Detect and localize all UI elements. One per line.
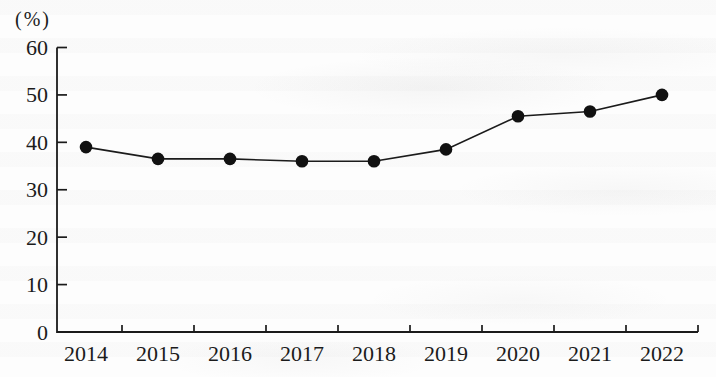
y-axis-tick-label: 30 [26, 177, 48, 202]
line-chart: 0102030405060201420152016201720182019202… [0, 0, 716, 377]
x-axis-tick-label: 2021 [568, 341, 612, 366]
data-point-marker [368, 155, 381, 168]
x-axis-tick-label: 2020 [496, 341, 540, 366]
x-axis-tick-label: 2019 [424, 341, 468, 366]
y-axis-tick-label: 40 [26, 130, 48, 155]
data-series-line [86, 95, 662, 161]
data-point-marker [512, 110, 525, 123]
y-axis-tick-label: 0 [37, 320, 48, 345]
y-axis-unit-label: (%) [15, 8, 51, 31]
x-axis-tick-label: 2014 [64, 341, 108, 366]
data-point-marker [584, 105, 597, 118]
x-axis-tick-label: 2016 [208, 341, 252, 366]
data-point-marker [440, 143, 453, 156]
y-axis-tick-label: 60 [26, 35, 48, 60]
x-axis-tick-label: 2018 [352, 341, 396, 366]
data-point-marker [80, 141, 93, 154]
x-axis-tick-label: 2022 [640, 341, 684, 366]
x-axis-tick-label: 2015 [136, 341, 180, 366]
data-point-marker [152, 153, 165, 166]
y-axis-tick-label: 10 [26, 272, 48, 297]
data-point-marker [296, 155, 309, 168]
data-point-marker [656, 89, 669, 102]
data-point-marker [224, 153, 237, 166]
axis-lines [57, 48, 698, 333]
x-axis-tick-label: 2017 [280, 341, 324, 366]
y-axis-tick-label: 50 [26, 82, 48, 107]
chart-canvas: (%) 010203040506020142015201620172018201… [0, 0, 716, 377]
y-axis-tick-label: 20 [26, 225, 48, 250]
